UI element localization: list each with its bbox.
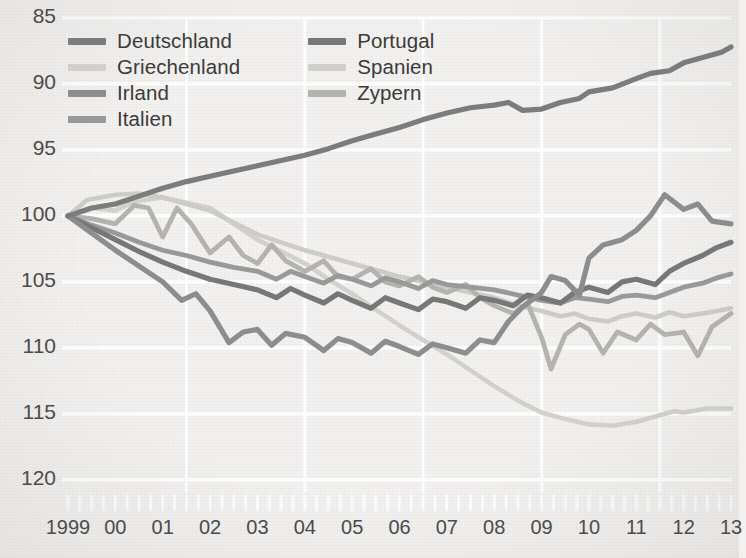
legend-item-label: Spanien xyxy=(357,57,433,78)
legend-item-label: Griechenland xyxy=(117,57,240,78)
x-axis-tick-label: 13 xyxy=(711,516,746,539)
y-axis-tick-label: 90 xyxy=(4,70,56,94)
legend-item-label: Deutschland xyxy=(117,31,232,52)
legend-item-portugal[interactable]: Portugal xyxy=(308,28,434,54)
legend-item-spanien[interactable]: Spanien xyxy=(308,54,434,80)
legend-item-irland[interactable]: Irland xyxy=(68,80,240,106)
x-axis-tick-label: 08 xyxy=(474,516,514,539)
x-axis-tick-label: 12 xyxy=(664,516,704,539)
x-axis-tick-label: 03 xyxy=(237,516,277,539)
x-axis-tick-label: 06 xyxy=(380,516,420,539)
legend-item-label: Irland xyxy=(117,83,169,104)
legend-swatch-icon xyxy=(308,90,346,97)
legend-item-italien[interactable]: Italien xyxy=(68,106,240,132)
legend-swatch-icon xyxy=(68,90,106,97)
legend-swatch-icon xyxy=(308,64,346,71)
x-axis-tick-label: 00 xyxy=(95,516,135,539)
x-axis-tick-label: 02 xyxy=(190,516,230,539)
y-axis-tick-label: 85 xyxy=(4,4,56,28)
x-axis-tick-label: 11 xyxy=(616,516,656,539)
x-axis-tick-label: 05 xyxy=(332,516,372,539)
x-axis-tick-label: 07 xyxy=(427,516,467,539)
legend-item-deutschland[interactable]: Deutschland xyxy=(68,28,240,54)
legend-swatch-icon xyxy=(308,38,346,45)
y-axis-tick-label: 105 xyxy=(4,268,56,292)
y-axis-tick-label: 100 xyxy=(4,202,56,226)
y-axis-tick-label: 120 xyxy=(4,466,56,490)
legend-item-zypern[interactable]: Zypern xyxy=(308,80,434,106)
legend-swatch-icon xyxy=(68,116,106,123)
legend-item-griechenland[interactable]: Griechenland xyxy=(68,54,240,80)
y-axis-tick-label: 95 xyxy=(4,136,56,160)
legend-column: PortugalSpanienZypern xyxy=(308,28,434,132)
y-axis-tick-label: 115 xyxy=(4,400,56,424)
x-axis-tick-label: 10 xyxy=(569,516,609,539)
x-axis-tick-label: 09 xyxy=(522,516,562,539)
x-axis-tick-label: 01 xyxy=(143,516,183,539)
legend-item-label: Zypern xyxy=(357,83,421,104)
y-axis-tick-label: 110 xyxy=(4,334,56,358)
legend-column: DeutschlandGriechenlandIrlandItalien xyxy=(68,28,240,132)
chart-legend: DeutschlandGriechenlandIrlandItalienPort… xyxy=(68,28,434,132)
legend-item-label: Portugal xyxy=(357,31,434,52)
x-axis-tick-label: 04 xyxy=(285,516,325,539)
legend-item-label: Italien xyxy=(117,109,172,130)
x-axis-tick-label: 1999 xyxy=(35,516,101,539)
legend-swatch-icon xyxy=(68,64,106,71)
legend-swatch-icon xyxy=(68,38,106,45)
